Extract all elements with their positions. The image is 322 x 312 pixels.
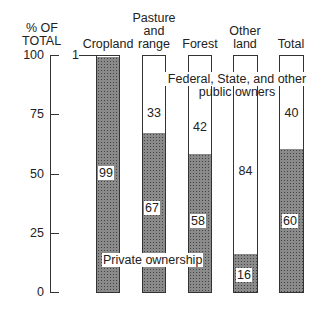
tick-label-100: 100 [10, 49, 44, 62]
tick-label-25: 25 [10, 227, 44, 240]
value-public-pasture: 33 [142, 107, 166, 120]
value-private-cropland: 99 [98, 166, 114, 180]
value-private-total: 60 [282, 214, 298, 228]
value-public-total: 40 [279, 107, 304, 120]
tick-label-50: 50 [10, 168, 44, 181]
category-label-pasture-3: range [128, 38, 180, 51]
tick-75 [50, 114, 59, 115]
value-public-cropland: 1 [72, 49, 79, 62]
tick-label-0: 0 [10, 286, 44, 299]
value-private-forest: 58 [190, 214, 206, 228]
value-public-other: 84 [233, 165, 258, 178]
tick-25 [50, 233, 59, 234]
category-label-total: Total [268, 38, 314, 51]
tick-100 [50, 55, 59, 56]
value-private-other: 16 [236, 268, 252, 282]
stacked-bar-chart: % OF TOTAL 100 75 50 25 0 Cropland Pastu… [0, 0, 322, 312]
annotation-public-owners-1: Federal, State, and other [156, 72, 318, 86]
value-private-pasture: 67 [144, 201, 160, 215]
value-public-forest: 42 [188, 121, 212, 134]
tick-label-75: 75 [10, 108, 44, 121]
y-axis-label-line2: TOTAL [22, 35, 61, 48]
leader-line-cropland [79, 55, 96, 56]
tick-0 [50, 292, 59, 293]
category-label-other-2: land [222, 38, 268, 51]
tick-50 [50, 174, 59, 175]
category-label-forest: Forest [176, 38, 224, 51]
annotation-private-ownership: Private ownership [102, 253, 203, 267]
annotation-public-owners-2: public owners [156, 85, 318, 99]
